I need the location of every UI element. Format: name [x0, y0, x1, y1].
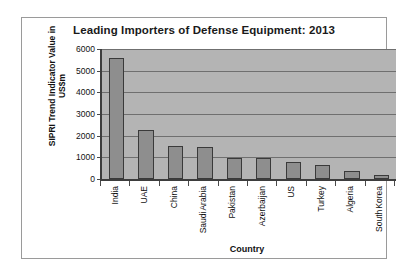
x-axis-tick-label: US	[286, 186, 296, 198]
x-axis-tick-label-line: China	[169, 186, 179, 208]
x-axis-label-slot: Pakistan	[218, 186, 247, 248]
x-axis-tick-label-line: Korea	[374, 186, 384, 209]
x-axis-tick-label-line: South	[374, 210, 384, 232]
bar[interactable]	[315, 165, 330, 179]
x-axis-label-slot: UAE	[129, 186, 158, 248]
x-axis-label-slot: China	[159, 186, 188, 248]
x-axis-tick-label: China	[169, 186, 179, 208]
bar-series	[102, 49, 396, 179]
x-axis-tick-label-line: Algeria	[345, 186, 355, 212]
x-axis-tick-labels: IndiaUAEChinaSaudiArabiaPakistanAzerbaij…	[100, 186, 394, 248]
x-axis-tick-label: Turkey	[316, 186, 326, 212]
x-axis-tick-label: Algeria	[345, 186, 355, 212]
bar[interactable]	[256, 158, 271, 179]
bar-slot	[190, 49, 219, 179]
bar[interactable]	[168, 146, 183, 179]
bar-slot	[278, 49, 307, 179]
y-axis-tick-label: 2000	[76, 131, 95, 141]
x-axis-label-slot: India	[100, 186, 129, 248]
x-axis-tick-label-line: Turkey	[316, 186, 326, 212]
x-axis-tick-label: Pakistan	[227, 186, 237, 219]
x-axis-tick-label: SaudiArabia	[198, 186, 208, 233]
x-axis-label-slot: Algeria	[335, 186, 364, 248]
x-axis-tick-label-line: US	[286, 186, 296, 198]
bar-slot	[308, 49, 337, 179]
x-axis-tick-label-line: India	[110, 186, 120, 204]
bar[interactable]	[374, 175, 389, 179]
x-axis-tick-label: UAE	[139, 186, 149, 203]
bar[interactable]	[344, 171, 359, 179]
bar-slot	[161, 49, 190, 179]
x-axis-tick-label-line: Azerbaijan	[257, 186, 267, 226]
bar[interactable]	[286, 162, 301, 179]
x-axis-tick-mark	[394, 181, 395, 186]
x-axis-label-slot: Azerbaijan	[247, 186, 276, 248]
bar-slot	[131, 49, 160, 179]
y-axis-tick-labels: 0100020003000400050006000	[66, 49, 97, 179]
x-axis-label-slot: US	[276, 186, 305, 248]
x-axis-tick-label-line: Arabia	[198, 186, 208, 211]
chart-title: Leading Importers of Defense Equipment: …	[22, 24, 386, 36]
x-axis-tick-label: SouthKorea	[374, 186, 384, 232]
x-axis-tick-label: Azerbaijan	[257, 186, 267, 226]
bar-slot	[367, 49, 396, 179]
y-axis-tick-label: 3000	[76, 109, 95, 119]
bar[interactable]	[227, 158, 242, 179]
bar[interactable]	[138, 130, 153, 179]
x-axis-label-slot: Turkey	[306, 186, 335, 248]
x-axis-title: Country	[100, 244, 394, 254]
x-axis-label-slot: SouthKorea	[365, 186, 394, 248]
x-axis-tick-label-line: UAE	[139, 186, 149, 203]
plot-area	[100, 49, 396, 181]
bar-slot	[337, 49, 366, 179]
chart-container: Leading Importers of Defense Equipment: …	[21, 17, 387, 259]
y-axis-title-line-1: SIPRI Trend Indicator Value in	[47, 26, 58, 146]
bar-slot	[220, 49, 249, 179]
bar[interactable]	[109, 58, 124, 179]
y-axis-tick-label: 1000	[76, 152, 95, 162]
y-axis-tick-label: 0	[90, 174, 95, 184]
x-axis-tick-label: India	[110, 186, 120, 204]
x-axis-tick-label-line: Pakistan	[227, 186, 237, 219]
bar-slot	[249, 49, 278, 179]
x-axis-label-slot: SaudiArabia	[188, 186, 217, 248]
bar-slot	[102, 49, 131, 179]
bar[interactable]	[197, 147, 212, 180]
y-axis-tick-label: 6000	[76, 44, 95, 54]
x-axis-tick-label-line: Saudi	[198, 212, 208, 234]
y-axis-tick-label: 5000	[76, 66, 95, 76]
y-axis-tick-label: 4000	[76, 87, 95, 97]
